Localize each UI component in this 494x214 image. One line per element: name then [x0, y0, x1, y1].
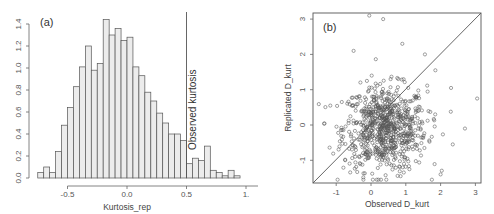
histogram-bar	[169, 134, 175, 178]
y-axis-title: Replicated D_kurt	[283, 64, 293, 132]
histogram-bar	[198, 160, 204, 178]
y-tick-label: 1.4	[14, 18, 23, 30]
data-point	[340, 100, 343, 103]
data-point	[356, 170, 359, 173]
y-tick-label: 0.8	[14, 84, 23, 96]
histogram-bar	[97, 64, 103, 178]
data-point	[374, 58, 377, 61]
histogram-bar	[175, 134, 181, 178]
y-tick-label: 0.6	[14, 106, 23, 118]
data-point	[398, 170, 401, 173]
data-point	[426, 90, 429, 93]
histogram-bar	[210, 170, 216, 178]
data-point	[336, 178, 339, 181]
y-tick-label: 0.0	[14, 172, 23, 184]
data-point	[349, 115, 352, 118]
x-tick-label: 1.	[243, 190, 250, 199]
data-point	[398, 141, 401, 144]
histogram-bar	[234, 176, 240, 178]
y-tick-label: 2	[298, 52, 307, 57]
data-point	[403, 81, 406, 84]
data-point	[376, 166, 379, 169]
histogram-bar	[38, 173, 44, 179]
histogram-bar	[79, 67, 85, 178]
data-point	[359, 99, 362, 102]
data-point	[379, 163, 382, 166]
data-point	[338, 145, 341, 148]
data-point	[426, 119, 429, 122]
data-point	[434, 113, 437, 116]
data-point	[476, 97, 479, 100]
histogram-bar	[115, 28, 121, 178]
data-point	[365, 79, 368, 82]
data-point	[451, 143, 454, 146]
observed-kurtosis-label: Observed kurtosis	[187, 69, 198, 150]
data-point	[373, 144, 376, 147]
data-point	[408, 168, 411, 171]
histogram-bar	[151, 101, 157, 178]
y-axis: -10123	[298, 16, 313, 164]
y-tick-label: 1	[298, 87, 307, 92]
y-tick-label: 1.2	[14, 40, 23, 52]
data-point	[344, 142, 347, 145]
histogram-bar	[50, 173, 56, 179]
data-point	[374, 91, 377, 94]
data-point	[373, 87, 376, 90]
histogram-bar	[44, 167, 50, 178]
data-point	[420, 109, 423, 112]
x-tick-label: -0.5	[61, 190, 75, 199]
data-point	[344, 125, 347, 128]
data-point	[423, 53, 426, 56]
histogram-bar	[68, 108, 74, 178]
histogram-bar	[109, 35, 115, 178]
data-point	[324, 106, 327, 109]
histogram-bar	[139, 76, 145, 178]
data-point	[433, 125, 436, 128]
data-point	[368, 14, 371, 17]
data-point	[414, 107, 417, 110]
histogram-bar	[85, 46, 91, 178]
data-point	[463, 127, 466, 130]
data-point	[337, 148, 340, 151]
histogram-bar	[133, 67, 139, 178]
data-point	[328, 146, 331, 149]
data-point	[379, 82, 382, 85]
y-axis: 0.00.20.40.60.81.01.21.4	[14, 18, 29, 184]
data-point	[407, 165, 410, 168]
x-axis-title: Kurtosis_rep	[103, 202, 151, 212]
histogram-bar	[228, 170, 234, 178]
data-point	[367, 90, 370, 93]
y-tick-label: 0.2	[14, 150, 23, 162]
histogram-bar	[73, 87, 79, 178]
x-axis: -10123	[333, 183, 479, 197]
y-tick-label: 0	[298, 122, 307, 127]
data-point	[433, 163, 436, 166]
scatter-panel: -10123 -10123 (b) Observed D_kurt Replic…	[283, 13, 481, 209]
y-tick-label: 0.4	[14, 128, 23, 140]
data-point	[335, 125, 338, 128]
x-tick-label: 0.0	[121, 190, 133, 199]
data-point	[430, 135, 433, 138]
data-point	[419, 154, 422, 157]
data-point	[348, 162, 351, 165]
data-point	[418, 161, 421, 164]
y-tick-label: 1.0	[14, 62, 23, 74]
histogram-bar	[127, 37, 133, 178]
data-point	[412, 122, 415, 125]
data-point	[329, 104, 332, 107]
histogram-bar	[91, 70, 97, 178]
histogram-bar	[216, 173, 222, 179]
data-point	[353, 129, 356, 132]
data-point	[405, 147, 408, 150]
data-point	[396, 86, 399, 89]
x-tick-label: 3	[473, 188, 478, 197]
data-point	[440, 169, 443, 172]
data-point	[352, 49, 355, 52]
data-point	[332, 152, 335, 155]
data-point	[362, 178, 365, 181]
data-point	[354, 109, 357, 112]
data-point	[441, 133, 444, 136]
histogram-bar	[62, 125, 68, 178]
histogram-bar	[222, 176, 228, 178]
data-point	[396, 174, 399, 177]
